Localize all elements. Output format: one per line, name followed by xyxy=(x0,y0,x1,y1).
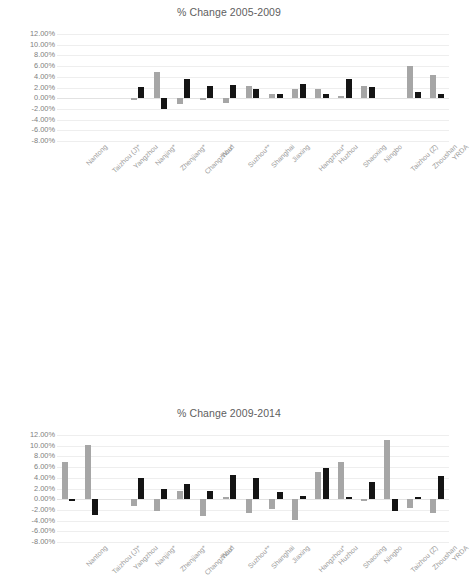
bar xyxy=(131,499,137,505)
bar-group xyxy=(380,34,403,141)
bar-group xyxy=(218,34,241,141)
y-tick-label: 0.00% xyxy=(3,496,55,503)
chart-title-1: % Change 2005-2009 xyxy=(0,6,458,18)
bar-group xyxy=(334,435,357,542)
bar xyxy=(292,89,298,98)
x-axis-label: Nantong xyxy=(84,143,108,167)
bar xyxy=(430,75,436,99)
bar xyxy=(361,86,367,99)
bar-series-chart2 xyxy=(57,435,449,542)
bar-group xyxy=(57,435,80,542)
bar xyxy=(200,499,206,516)
bar-group xyxy=(403,34,426,141)
bar xyxy=(369,87,375,98)
y-tick-label: 12.00% xyxy=(3,431,55,438)
y-tick-label: -4.00% xyxy=(3,116,55,123)
y-tick-label: 10.00% xyxy=(3,442,55,449)
bar xyxy=(323,94,329,98)
bar xyxy=(384,440,390,499)
bar xyxy=(277,94,283,98)
chart-2009-2014: % Change 2009-2014 12.00%10.00%8.00%6.00… xyxy=(0,204,458,409)
bar-group xyxy=(172,435,195,542)
chart-2005-2009: % Change 2005-2009 12.00%10.00%8.00%6.00… xyxy=(0,0,458,204)
bar-group xyxy=(288,435,311,542)
x-axis-label: Wuxi xyxy=(219,544,235,560)
bar xyxy=(177,98,183,104)
chart-title-2: % Change 2009-2014 xyxy=(0,407,458,419)
bar xyxy=(207,86,213,98)
bar-group xyxy=(426,34,449,141)
y-tick-label: -8.00% xyxy=(3,137,55,144)
y-tick-label: -6.00% xyxy=(3,127,55,134)
bar xyxy=(253,89,259,98)
bar xyxy=(315,472,321,499)
y-tick-label: 8.00% xyxy=(3,52,55,59)
bar xyxy=(200,98,206,100)
bar xyxy=(62,462,68,499)
bar-group xyxy=(403,435,426,542)
bar xyxy=(69,499,75,501)
bar-group xyxy=(103,435,126,542)
bar-series-chart1 xyxy=(57,34,449,141)
bar-group xyxy=(103,34,126,141)
y-tick-label: 6.00% xyxy=(3,62,55,69)
bar xyxy=(369,482,375,499)
gridline xyxy=(57,141,449,142)
bar-group xyxy=(149,435,172,542)
bar-group xyxy=(311,435,334,542)
bar xyxy=(138,87,144,98)
y-tick-label: 4.00% xyxy=(3,474,55,481)
y-tick-label: 10.00% xyxy=(3,41,55,48)
bar-group xyxy=(241,435,264,542)
bar-group xyxy=(265,435,288,542)
bar xyxy=(154,499,160,511)
y-tick-label: 8.00% xyxy=(3,453,55,460)
x-axis-label: Wuxi xyxy=(219,143,235,159)
bar-group xyxy=(426,435,449,542)
y-tick-label: -4.00% xyxy=(3,517,55,524)
y-tick-label: 12.00% xyxy=(3,30,55,37)
y-tick-label: -2.00% xyxy=(3,506,55,513)
bar-group xyxy=(126,435,149,542)
x-axis-label: Suzhou** xyxy=(246,143,272,169)
bar xyxy=(177,491,183,499)
bar-group xyxy=(57,34,80,141)
bar xyxy=(253,478,259,499)
bar xyxy=(277,492,283,499)
bar xyxy=(230,475,236,500)
bar-group xyxy=(195,34,218,141)
bar-group xyxy=(80,34,103,141)
bar xyxy=(300,84,306,98)
bar xyxy=(338,462,344,499)
bar xyxy=(92,499,98,515)
bar-group xyxy=(357,435,380,542)
bar xyxy=(315,89,321,98)
bar xyxy=(338,96,344,98)
bar-group xyxy=(218,435,241,542)
bar xyxy=(269,499,275,509)
bar-group xyxy=(126,34,149,141)
bar xyxy=(415,497,421,500)
bar xyxy=(346,79,352,98)
bar xyxy=(407,499,413,508)
bar-group xyxy=(380,435,403,542)
gridline xyxy=(57,542,449,543)
x-axis-label: Zhenjiang* xyxy=(179,143,208,172)
y-tick-label: -8.00% xyxy=(3,538,55,545)
bar xyxy=(300,496,306,499)
y-tick-label: -6.00% xyxy=(3,528,55,535)
bar-group xyxy=(172,34,195,141)
y-tick-label: -2.00% xyxy=(3,105,55,112)
bar xyxy=(207,491,213,500)
bar xyxy=(438,94,444,98)
y-tick-label: 6.00% xyxy=(3,463,55,470)
bar xyxy=(438,476,444,500)
bar-group xyxy=(149,34,172,141)
bar-group xyxy=(195,435,218,542)
bar xyxy=(161,489,167,499)
y-axis-chart2: 12.00%10.00%8.00%6.00%4.00%2.00%0.00%-2.… xyxy=(0,435,55,542)
bar xyxy=(85,445,91,499)
bar xyxy=(246,86,252,98)
bar xyxy=(269,94,275,98)
y-tick-label: 2.00% xyxy=(3,485,55,492)
